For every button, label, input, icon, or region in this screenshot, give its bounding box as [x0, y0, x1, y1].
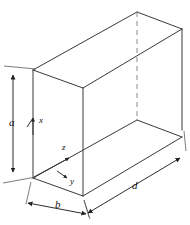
ext-line-d-near — [84, 200, 90, 219]
coordinate-axes-group: x z y — [27, 115, 74, 186]
dimension-a-group: a — [3, 66, 36, 183]
box-bottom-face-edges — [33, 120, 182, 196]
dim-label-d: d — [132, 179, 138, 191]
dim-label-b: b — [55, 198, 61, 210]
axis-z-arrow — [34, 158, 69, 177]
axis-label-y: y — [69, 176, 74, 186]
box-vertical-edges — [33, 29, 182, 196]
edge-top-back-right — [137, 12, 182, 29]
axis-label-x: x — [38, 115, 43, 125]
axis-x-tick — [27, 118, 33, 127]
box-diagram-svg: a b d x z y — [0, 0, 190, 225]
axis-y-arrow — [57, 171, 67, 178]
dim-label-a: a — [9, 116, 15, 128]
edge-bottom-front-left — [33, 178, 83, 196]
ext-line-a-top — [4, 66, 36, 69]
ext-line-b-left — [26, 182, 31, 204]
box-top-face-edges — [33, 12, 182, 88]
ext-line-d-far — [184, 131, 186, 151]
box-dimension-figure: a b d x z y — [0, 0, 190, 225]
edge-bottom-back-right — [137, 120, 182, 137]
axis-label-z: z — [61, 142, 66, 152]
edge-top-back-left — [33, 12, 137, 70]
edge-top-front-left — [33, 70, 83, 88]
edge-top-front-right — [83, 29, 182, 88]
